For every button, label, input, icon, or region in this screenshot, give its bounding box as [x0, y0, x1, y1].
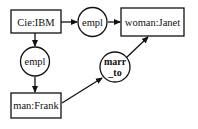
relation-empl-left: empl [21, 47, 50, 76]
relation-label: empl [25, 56, 46, 67]
edge-marr-to-janet [126, 37, 148, 58]
relation-label-line2: _to [107, 67, 121, 78]
edge-frank-to-marr [62, 78, 102, 103]
concept-cie-ibm: Cie:IBM [11, 10, 61, 33]
conceptual-graph-diagram: Cie:IBM woman:Janet man:Frank empl empl … [0, 0, 198, 129]
relation-label: empl [82, 17, 103, 28]
concept-label: woman:Janet [125, 17, 180, 28]
concept-man-frank: man:Frank [11, 93, 61, 118]
concept-woman-janet: woman:Janet [121, 8, 184, 36]
concept-label: man:Frank [13, 100, 59, 111]
relation-label-line1: marr [104, 56, 127, 67]
relation-marr-to: marr _to [100, 52, 130, 82]
concept-label: Cie:IBM [17, 17, 55, 28]
relation-empl-top: empl [78, 8, 107, 37]
